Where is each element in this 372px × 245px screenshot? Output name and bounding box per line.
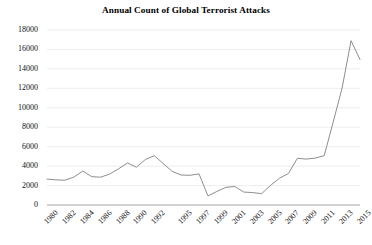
y-tick-label: 6000: [22, 143, 43, 151]
y-tick-label: 12000: [18, 84, 43, 92]
plot-area: [47, 30, 360, 205]
y-tick-label: 0: [34, 201, 43, 209]
data-series-line: [47, 41, 360, 196]
series-polyline: [47, 41, 360, 196]
chart-container: Annual Count of Global Terrorist Attacks…: [0, 0, 372, 245]
y-tick-label: 10000: [18, 104, 43, 112]
y-tick-label: 14000: [18, 65, 43, 73]
y-tick-label: 8000: [22, 123, 43, 131]
y-axis: 0200040006000800010000120001400016000180…: [0, 30, 43, 205]
chart-title: Annual Count of Global Terrorist Attacks: [0, 5, 372, 15]
y-tick-label: 4000: [22, 162, 43, 170]
gridlines: [47, 30, 360, 186]
x-axis: 1980198219841986198819901992199519971999…: [47, 205, 360, 245]
y-tick-label: 16000: [18, 45, 43, 53]
y-tick-label: 18000: [18, 26, 43, 34]
plot-svg: [47, 30, 360, 205]
y-tick-label: 2000: [22, 182, 43, 190]
